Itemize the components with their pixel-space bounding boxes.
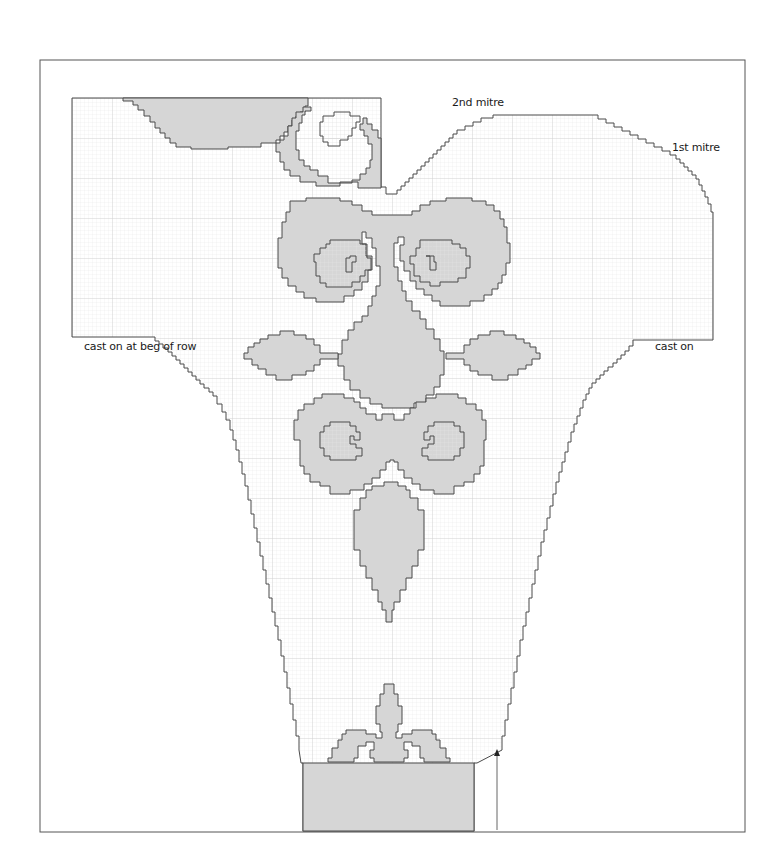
knitting-chart bbox=[0, 0, 784, 852]
label-second-mitre: 2nd mitre bbox=[452, 96, 504, 109]
label-cast-on-right: cast on bbox=[655, 340, 694, 353]
label-cast-on-left: cast on at beg of row bbox=[84, 340, 196, 353]
label-first-mitre: 1st mitre bbox=[672, 141, 720, 154]
motif-base-band bbox=[303, 763, 474, 831]
